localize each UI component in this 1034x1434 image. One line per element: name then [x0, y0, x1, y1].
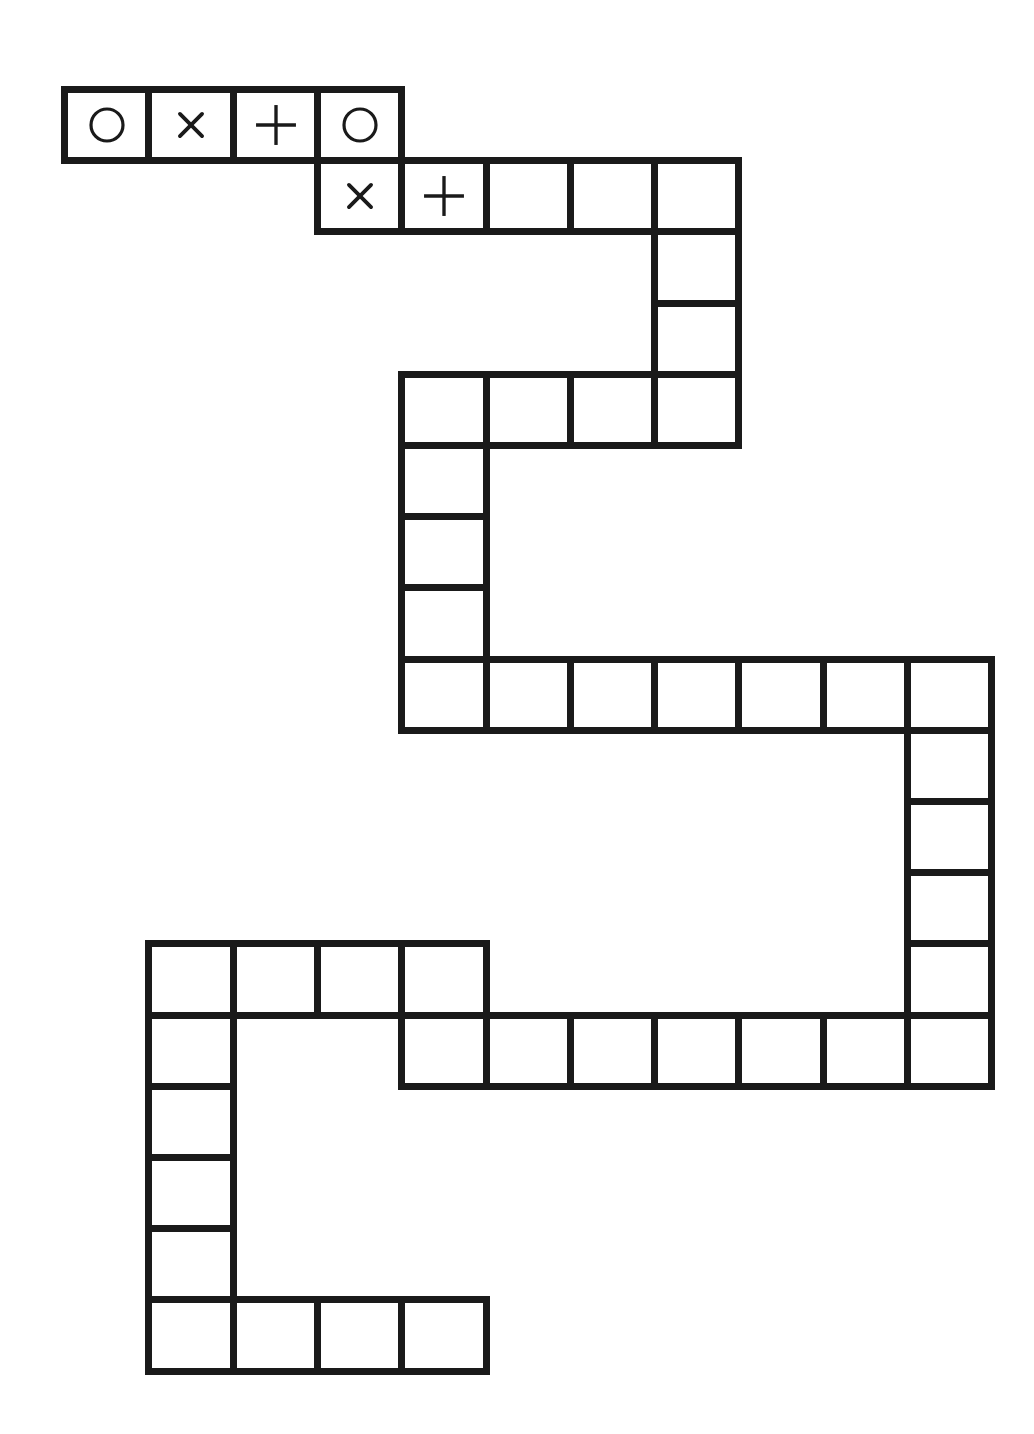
cross-icon: [343, 179, 377, 213]
board-cell[interactable]: [904, 869, 995, 947]
circle-icon: [87, 105, 127, 145]
board-cell[interactable]: [398, 442, 490, 520]
board-cell[interactable]: [904, 656, 995, 734]
board-cell[interactable]: [398, 656, 490, 734]
board-cell[interactable]: [735, 1012, 827, 1090]
board-cell[interactable]: [145, 1296, 237, 1375]
game-board: [0, 0, 1034, 1434]
board-cell[interactable]: [651, 157, 742, 235]
board-cell[interactable]: [483, 371, 574, 449]
board-cell[interactable]: [651, 656, 742, 734]
board-cell[interactable]: [398, 157, 490, 235]
board-cell[interactable]: [230, 1296, 321, 1375]
board-cell[interactable]: [230, 86, 321, 164]
board-cell[interactable]: [820, 656, 911, 734]
board-cell[interactable]: [567, 157, 658, 235]
board-cell[interactable]: [567, 656, 658, 734]
board-cell[interactable]: [904, 940, 995, 1019]
board-cell[interactable]: [145, 940, 237, 1019]
board-cell[interactable]: [398, 584, 490, 663]
circle-icon: [340, 105, 380, 145]
board-cell[interactable]: [314, 940, 405, 1019]
board-cell[interactable]: [904, 798, 995, 876]
board-cell[interactable]: [145, 1225, 237, 1303]
board-cell[interactable]: [398, 513, 490, 591]
board-cell[interactable]: [483, 1012, 574, 1090]
board-cell[interactable]: [145, 86, 237, 164]
board-cell[interactable]: [651, 300, 742, 378]
board-cell[interactable]: [314, 1296, 405, 1375]
board-cell[interactable]: [904, 727, 995, 805]
board-cell[interactable]: [904, 1012, 995, 1090]
board-cell[interactable]: [398, 940, 490, 1019]
board-cell[interactable]: [314, 157, 405, 235]
board-cell[interactable]: [483, 656, 574, 734]
board-cell[interactable]: [567, 1012, 658, 1090]
board-cell[interactable]: [398, 1296, 490, 1375]
board-cell[interactable]: [820, 1012, 911, 1090]
board-cell[interactable]: [735, 656, 827, 734]
plus-icon: [423, 175, 465, 217]
board-cell[interactable]: [567, 371, 658, 449]
board-cell[interactable]: [145, 1012, 237, 1090]
board-cell[interactable]: [651, 371, 742, 449]
board-cell[interactable]: [651, 228, 742, 307]
board-cell[interactable]: [314, 86, 405, 164]
board-cell[interactable]: [398, 371, 490, 449]
board-cell[interactable]: [145, 1154, 237, 1232]
plus-icon: [255, 104, 297, 146]
cross-icon: [174, 108, 208, 142]
board-cell[interactable]: [398, 1012, 490, 1090]
board-cell[interactable]: [651, 1012, 742, 1090]
board-cell[interactable]: [145, 1083, 237, 1161]
board-cell[interactable]: [61, 86, 152, 164]
board-cell[interactable]: [483, 157, 574, 235]
board-cell[interactable]: [230, 940, 321, 1019]
